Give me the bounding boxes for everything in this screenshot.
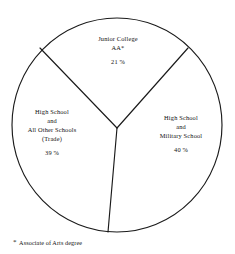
slice-label-line: High School [136, 113, 226, 122]
slice-label-line: All Other Schools [6, 125, 98, 134]
pie-slice-label-junior-college: Junior College AA* 21 % [66, 34, 170, 66]
slice-label-line: Junior College [66, 34, 170, 43]
pie-slice-label-high-school-military: High School and Military School 40 % [136, 113, 226, 154]
pie-slice-label-high-school-trade: High School and All Other Schools (Trade… [6, 107, 98, 157]
slice-percent-value: 39 % [6, 148, 98, 157]
slice-label-line: and [136, 122, 226, 131]
footnote-marker-icon: * [13, 239, 17, 246]
slice-percent-value: 40 % [136, 145, 226, 154]
slice-label-line: Military School [136, 131, 226, 140]
slice-label-line: (Trade) [6, 134, 98, 143]
footnote-text: Associate of Arts degree [19, 239, 82, 246]
slice-label-line: High School [6, 107, 98, 116]
slice-label-line: AA* [66, 43, 170, 52]
pie-chart-figure: Junior College AA* 21 % High School and … [0, 0, 235, 254]
slice-label-line: and [6, 116, 98, 125]
chart-footnote: *Associate of Arts degree [13, 239, 82, 246]
slice-percent-value: 21 % [66, 57, 170, 66]
